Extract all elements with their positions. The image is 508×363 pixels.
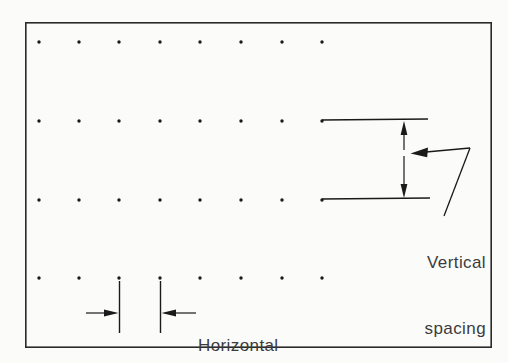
grid-dot — [77, 198, 80, 201]
grid-dot — [117, 198, 120, 201]
horizontal-spacing-label: Horizontal spacing — [198, 291, 279, 363]
grid-dot — [280, 40, 283, 43]
grid-dot — [239, 198, 242, 201]
vertical-spacing-dimension — [322, 119, 470, 216]
spacing-diagram: Vertical spacing Horizontal spacing — [0, 0, 508, 363]
vertical-dimension-arrow-up — [401, 121, 408, 135]
grid-dot — [239, 40, 242, 43]
grid-dot — [37, 198, 40, 201]
grid-dot — [158, 40, 161, 43]
horizontal-spacing-label-line-1: Horizontal — [198, 335, 279, 357]
vertical-spacing-label-line-1: Vertical — [425, 252, 486, 274]
grid-dot — [117, 40, 120, 43]
grid-dot — [280, 198, 283, 201]
grid-dot — [239, 119, 242, 122]
grid-dot — [77, 276, 80, 279]
vertical-dimension-arrow-down — [401, 184, 408, 198]
horizontal-dimension-right-arrowhead — [162, 309, 177, 316]
vertical-spacing-leader-diagonal — [444, 148, 470, 216]
grid-dot — [320, 276, 323, 279]
vertical-spacing-leader-arrowhead — [411, 148, 429, 158]
vertical-spacing-label: Vertical spacing — [425, 208, 486, 363]
vertical-spacing-leader-horizontal — [426, 148, 470, 152]
grid-dot — [117, 119, 120, 122]
grid-dot — [37, 276, 40, 279]
vertical-dimension-upper-extension-line — [322, 119, 428, 120]
dot-grid — [37, 40, 323, 279]
grid-dot — [158, 198, 161, 201]
vertical-spacing-label-line-2: spacing — [425, 318, 486, 340]
grid-dot — [239, 276, 242, 279]
grid-dot — [158, 276, 161, 279]
grid-dot — [198, 276, 201, 279]
horizontal-dimension-left-arrowhead — [104, 309, 119, 316]
grid-dot — [198, 40, 201, 43]
grid-dot — [280, 119, 283, 122]
grid-dot — [77, 119, 80, 122]
grid-dot — [280, 276, 283, 279]
grid-dot — [158, 119, 161, 122]
grid-dot — [37, 119, 40, 122]
grid-dot — [117, 276, 120, 279]
grid-dot — [198, 198, 201, 201]
grid-dot — [77, 40, 80, 43]
grid-dot — [198, 119, 201, 122]
horizontal-spacing-dimension — [86, 281, 196, 333]
grid-dot — [37, 40, 40, 43]
grid-dot — [320, 40, 323, 43]
vertical-dimension-lower-extension-line — [322, 198, 430, 199]
